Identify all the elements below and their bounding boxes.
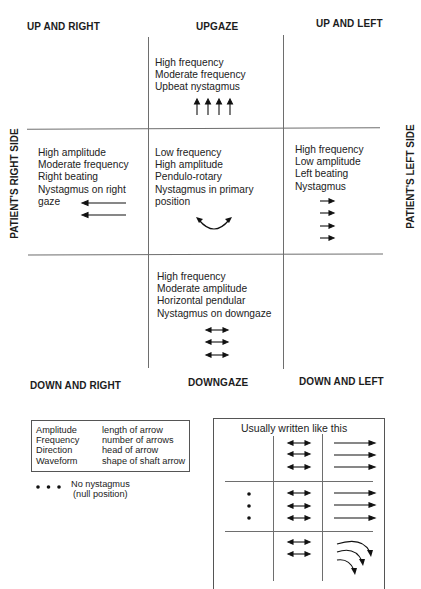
null-label-line-1: No nystagmus [71, 479, 130, 489]
label-patients-left-side: PATIENT'S LEFT SIDE [405, 117, 416, 237]
grid-line-left-vertical [148, 37, 149, 368]
legend-term: Amplitude [36, 425, 79, 435]
usual-notation-title: Usually written like this [241, 422, 347, 434]
cell-text-line: Moderate frequency [38, 159, 129, 171]
grid-line-bottom-horizontal [28, 253, 383, 255]
cell-primary: Low frequency High amplitude Pendulo-rot… [155, 147, 254, 208]
cell-text-line: Right beating [38, 171, 129, 183]
label-down-and-right: DOWN AND RIGHT [30, 380, 121, 391]
label-up-and-right: UP AND RIGHT [27, 21, 100, 32]
null-position-label: No nystagmus (null position) [71, 479, 130, 499]
legend-meaning: shape of shaft arrow [102, 456, 185, 466]
legend-meanings: length of arrow number of arrows head of… [102, 425, 185, 466]
cell-left-gaze: High frequency Low amplitude Left beatin… [295, 144, 364, 193]
grid-line-top-horizontal [27, 127, 380, 130]
cell-text-line: position [155, 196, 254, 208]
legend-meaning: length of arrow [102, 425, 185, 435]
cell-text-line: Nystagmus on right [38, 184, 129, 196]
label-upgaze: UPGAZE [196, 21, 238, 32]
usual-null-dots-icon [246, 491, 252, 525]
usual-double-arrows-icon [288, 440, 312, 570]
cell-downgaze: High frequency Moderate amplitude Horizo… [157, 271, 271, 320]
up-arrows-icon [194, 99, 244, 117]
cell-text-line: Nystagmus in primary [155, 184, 254, 196]
usual-long-right-arrows-icon [334, 440, 376, 530]
usual-curved-arrows-icon [334, 538, 376, 578]
cell-text-line: Left beating [295, 168, 364, 180]
legend-meaning: head of arrow [102, 445, 185, 455]
cell-text-line: Low frequency [155, 147, 254, 159]
label-downgaze: DOWNGAZE [188, 377, 248, 388]
cell-text-line: Low amplitude [295, 156, 364, 168]
legend-term: Frequency [36, 435, 79, 445]
cell-text-line: High frequency [155, 57, 246, 69]
cell-text-line: Upbeat nystagmus [155, 81, 246, 93]
legend-term: Waveform [36, 456, 79, 466]
cell-text-line: Pendulo-rotary [155, 171, 254, 183]
left-long-arrows-icon [82, 200, 127, 220]
cell-text-line: High amplitude [155, 159, 254, 171]
cell-text-line: Horizontal pendular [157, 295, 271, 307]
cell-text-line: Moderate frequency [155, 69, 246, 81]
curved-double-arrow-icon [195, 214, 235, 236]
right-short-arrows-icon [320, 198, 336, 244]
cell-text-line: High frequency [157, 271, 271, 283]
cell-text-line: Moderate amplitude [157, 283, 271, 295]
grid-line-right-vertical [283, 35, 284, 369]
legend-box: Amplitude Frequency Direction Waveform l… [31, 420, 190, 472]
legend-meaning: number of arrows [102, 435, 185, 445]
cell-right-gaze: High amplitude Moderate frequency Right … [38, 147, 129, 208]
usual-grid-vline-2 [322, 434, 323, 581]
cell-text-line: Nystagmus on downgaze [157, 308, 271, 320]
cell-text-line: High frequency [295, 144, 364, 156]
null-position-dots-icon [36, 484, 64, 490]
cell-text-line: Nystagmus [295, 181, 364, 193]
double-horizontal-arrows-icon [206, 327, 230, 361]
usual-grid-vline-1 [273, 436, 274, 581]
cell-text-line: High amplitude [38, 147, 129, 159]
legend-term: Direction [36, 445, 79, 455]
legend-terms: Amplitude Frequency Direction Waveform [36, 425, 79, 466]
cell-upgaze: High frequency Moderate frequency Upbeat… [155, 57, 246, 94]
label-up-and-left: UP AND LEFT [316, 18, 383, 29]
null-label-line-2: (null position) [71, 489, 130, 499]
label-patients-right-side: PATIENT'S RIGHT SIDE [9, 124, 20, 244]
label-down-and-left: DOWN AND LEFT [299, 376, 384, 387]
